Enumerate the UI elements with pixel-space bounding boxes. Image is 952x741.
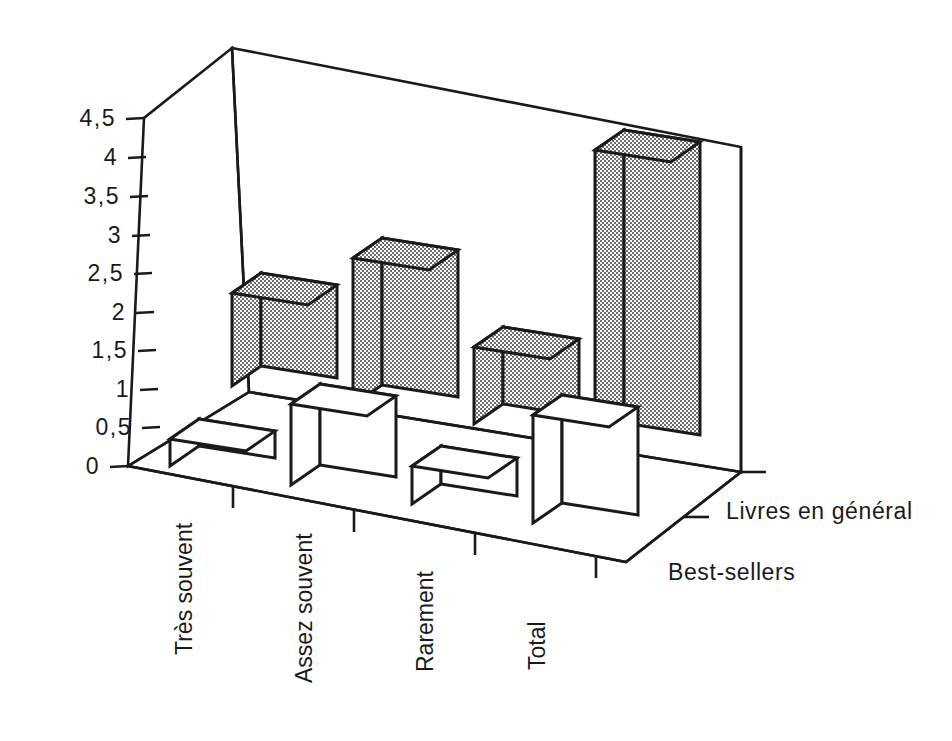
z-axis: Livres en général Best-sellers: [668, 472, 913, 585]
y-tick-label: 1: [116, 376, 130, 402]
y-tick-label: 2: [112, 299, 126, 325]
y-tick-label: 4,5: [80, 105, 116, 131]
y-tick-label: 4: [104, 144, 118, 170]
bar-livres-total: [595, 130, 700, 443]
bar-livres-tres-souvent: [232, 273, 337, 386]
y-tick-label: 3,5: [84, 183, 120, 209]
y-tick-label: 0: [86, 453, 100, 479]
chart-canvas: 4,5 4 3,5 3 2,5 2 1,5 1 0,5 0: [0, 0, 952, 741]
x-axis-labels: Très souvent Assez souvent Rarement Tota…: [171, 522, 550, 683]
x-tick-label-total: Total: [524, 621, 550, 670]
y-axis: 4,5 4 3,5 3 2,5 2 1,5 1 0,5 0: [80, 105, 160, 479]
series-label-best-sellers: Best-sellers: [668, 559, 795, 585]
bar-bestsellers-rarement: [412, 446, 517, 504]
chart-3d-bar: 4,5 4 3,5 3 2,5 2 1,5 1 0,5 0: [0, 0, 952, 741]
y-tick-label: 2,5: [88, 260, 124, 286]
x-tick-label-tres-souvent: Très souvent: [171, 522, 197, 655]
y-axis-tick-labels: 4,5 4 3,5 3 2,5 2 1,5 1 0,5 0: [80, 105, 132, 479]
x-tick-label-rarement: Rarement: [412, 570, 438, 672]
z-axis-labels: Livres en général Best-sellers: [668, 498, 913, 585]
bar-bestsellers-tres-souvent: [170, 419, 275, 466]
series-label-livres-en-general: Livres en général: [726, 498, 913, 524]
bar-livres-assez-souvent: [353, 238, 458, 405]
y-tick-label: 1,5: [92, 337, 128, 363]
bar-bestsellers-total: [533, 395, 638, 523]
y-tick-label: 3: [108, 222, 122, 248]
y-tick-label: 0,5: [96, 414, 132, 440]
x-tick-label-assez-souvent: Assez souvent: [291, 533, 317, 683]
bar-bestsellers-assez-souvent: [291, 384, 396, 485]
